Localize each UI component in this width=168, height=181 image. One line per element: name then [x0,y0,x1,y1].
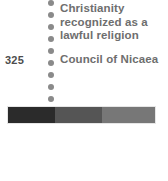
timeline-year-label: 325 [5,54,45,66]
timeline-dot [48,96,54,102]
timeline-dot [48,84,54,90]
timeline-event-label-edict: Christianity recognized as a lawful reli… [60,2,166,43]
timeline-dot [48,0,54,6]
era-segment-3 [102,107,155,123]
timeline-fragment: Christianity recognized as a lawful reli… [0,0,168,181]
event-line: lawful religion [60,29,166,43]
timeline-dot [48,48,54,54]
era-segment-2 [55,107,102,123]
timeline-dot [48,36,54,42]
timeline-dot [48,12,54,18]
timeline-axis-dots [48,0,56,108]
event-line: recognized as a [60,16,166,30]
timeline-dot [48,72,54,78]
era-segment-1 [8,107,55,123]
timeline-dot [48,60,54,66]
event-line: Christianity [60,2,166,16]
era-band [7,106,156,124]
timeline-dot [48,24,54,30]
timeline-event-label-nicaea: Council of Nicaea [60,53,166,67]
blank-whitespace [0,126,168,181]
